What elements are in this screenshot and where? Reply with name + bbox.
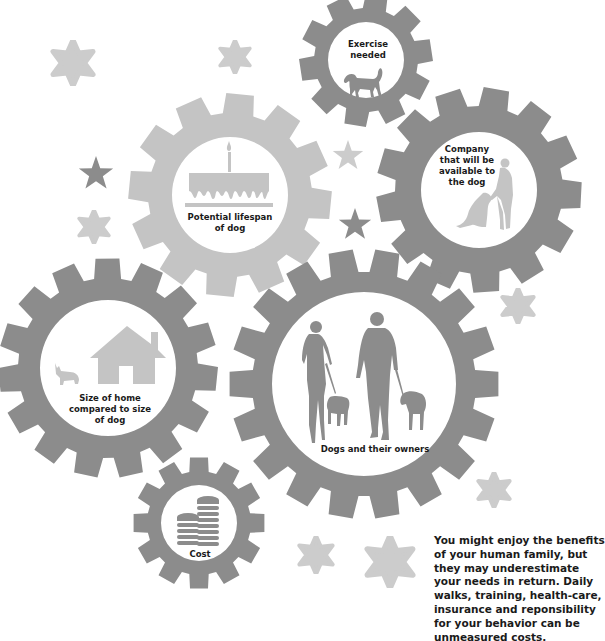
star-icon <box>79 156 113 189</box>
small-cog-icon <box>299 536 332 574</box>
label-line: Size of home <box>60 393 160 404</box>
label-line: Dogs and their owners <box>310 444 440 455</box>
label-line: the dog <box>432 177 502 188</box>
gear-label-lifespan: Potential lifespan of dog <box>180 212 280 234</box>
small-cog-icon <box>53 40 93 86</box>
label-line: available to <box>432 166 502 177</box>
coin-stacks-icon <box>177 496 219 546</box>
gear-exercise-needed <box>299 0 433 127</box>
small-cog-icon <box>478 472 509 508</box>
star-icon <box>333 140 363 169</box>
gear-dogs-and-owners <box>230 250 499 519</box>
gear-cost <box>134 458 265 589</box>
label-line: Potential lifespan <box>180 212 280 223</box>
gear-company <box>376 87 582 293</box>
small-cog-icon <box>220 40 250 74</box>
paragraph-line: of your human family, but <box>434 548 594 562</box>
gear-label-cost: Cost <box>180 549 220 560</box>
small-cog-icon <box>502 288 533 324</box>
paragraph-line: your needs in return. Daily <box>434 575 594 589</box>
gear-label-exercise: Exercise needed <box>333 39 403 61</box>
label-line: of dog <box>60 415 160 426</box>
gear-label-company: Company that will be available to the do… <box>432 144 502 188</box>
paragraph-line: insurance and reponsibility <box>434 603 594 617</box>
paragraph-line: walks, training, health-care, <box>434 589 594 603</box>
people-walking-dogs-icon <box>302 312 426 443</box>
label-line: of dog <box>180 223 280 234</box>
gear-label-home-size: Size of home compared to size of dog <box>60 393 160 426</box>
small-cog-icon <box>367 536 412 588</box>
paragraph-line: they may underestimate <box>434 562 594 576</box>
label-line: that will be <box>432 155 502 166</box>
gear-label-owners: Dogs and their owners <box>310 444 440 455</box>
paragraph-line: You might enjoy the benefits <box>434 534 594 548</box>
house-and-corgi-icon <box>55 326 166 385</box>
description-paragraph: You might enjoy the benefits of your hum… <box>434 534 594 641</box>
label-line: Cost <box>180 549 220 560</box>
birthday-cake-icon <box>185 141 273 207</box>
star-icon <box>339 208 371 239</box>
label-line: Company <box>432 144 502 155</box>
paragraph-line: for your behavior can be <box>434 617 594 631</box>
label-line: needed <box>333 50 403 61</box>
label-line: Exercise <box>333 39 403 50</box>
small-cog-icon <box>79 210 109 244</box>
paragraph-line: unmeasured costs. <box>434 631 594 641</box>
dog-icon <box>344 68 382 97</box>
label-line: compared to size <box>60 404 160 415</box>
